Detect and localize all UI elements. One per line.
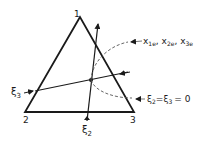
xi3-axis-line [35,72,128,91]
dashed-leader-lower [91,80,132,98]
equilibrium-composition-label: x1e, x2e, x3e [143,36,193,47]
leader-arrow-upper [131,41,142,42]
origin-condition-label: ξ2=ξ3= 0 [147,94,191,105]
ternary-diagram: 1 2 3 ξ3 ξ2 x1e, x2e, x3e ξ2=ξ3= 0 [0,0,203,148]
xi2-axis-tail-arrow [84,116,90,120]
xi3-arrow-in [24,91,33,93]
xi2-label: ξ2 [82,124,92,138]
vertex-3-label: 3 [130,115,136,125]
vertex-2-label: 2 [23,115,29,125]
vertex-1-label: 1 [74,9,80,19]
composition-triangle [25,17,134,112]
xi3-label: ξ3 [11,86,21,100]
